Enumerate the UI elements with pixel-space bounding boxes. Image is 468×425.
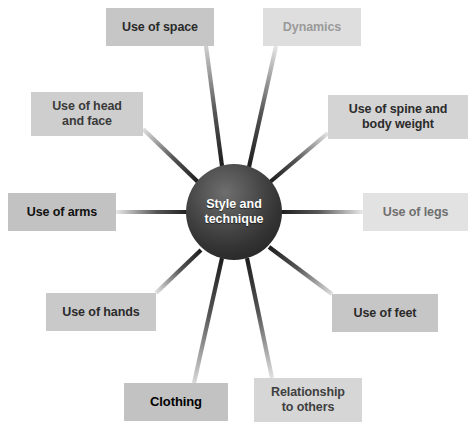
spoke-relationship-to-others	[247, 258, 272, 378]
spoke-use-of-spine-and-body-weight	[270, 133, 328, 182]
node-label-use-of-feet: Use of feet	[354, 306, 417, 321]
hub-label: Style and technique	[204, 197, 263, 227]
hub-node-style-and-technique[interactable]: Style and technique	[186, 164, 282, 260]
diagram-canvas: Style and technique Use of spaceDynamics…	[0, 0, 468, 425]
node-box-use-of-hands[interactable]: Use of hands	[46, 293, 156, 331]
node-label-relationship-to-others: Relationship to others	[271, 385, 345, 415]
node-box-use-of-space[interactable]: Use of space	[106, 8, 214, 46]
spoke-use-of-space	[206, 46, 222, 166]
node-label-use-of-head-and-face: Use of head and face	[52, 99, 122, 129]
node-label-use-of-space: Use of space	[122, 20, 198, 35]
node-box-clothing[interactable]: Clothing	[124, 383, 228, 421]
node-box-use-of-spine-and-body-weight[interactable]: Use of spine and body weight	[328, 95, 468, 139]
node-label-dynamics: Dynamics	[283, 20, 341, 35]
node-label-clothing: Clothing	[150, 394, 202, 409]
node-box-use-of-head-and-face[interactable]: Use of head and face	[31, 92, 143, 136]
node-box-use-of-arms[interactable]: Use of arms	[8, 193, 116, 231]
node-label-use-of-arms: Use of arms	[27, 205, 97, 220]
node-label-use-of-spine-and-body-weight: Use of spine and body weight	[349, 102, 447, 132]
node-box-dynamics[interactable]: Dynamics	[263, 8, 361, 46]
spoke-use-of-head-and-face	[143, 129, 198, 182]
node-box-use-of-legs[interactable]: Use of legs	[363, 193, 468, 231]
node-label-use-of-legs: Use of legs	[383, 205, 449, 220]
spoke-clothing	[194, 258, 222, 383]
spoke-use-of-hands	[156, 250, 201, 293]
spoke-dynamics	[249, 46, 276, 167]
spoke-use-of-feet	[269, 247, 332, 294]
node-box-use-of-feet[interactable]: Use of feet	[332, 294, 438, 332]
node-box-relationship-to-others[interactable]: Relationship to others	[254, 378, 362, 422]
node-label-use-of-hands: Use of hands	[62, 305, 139, 320]
